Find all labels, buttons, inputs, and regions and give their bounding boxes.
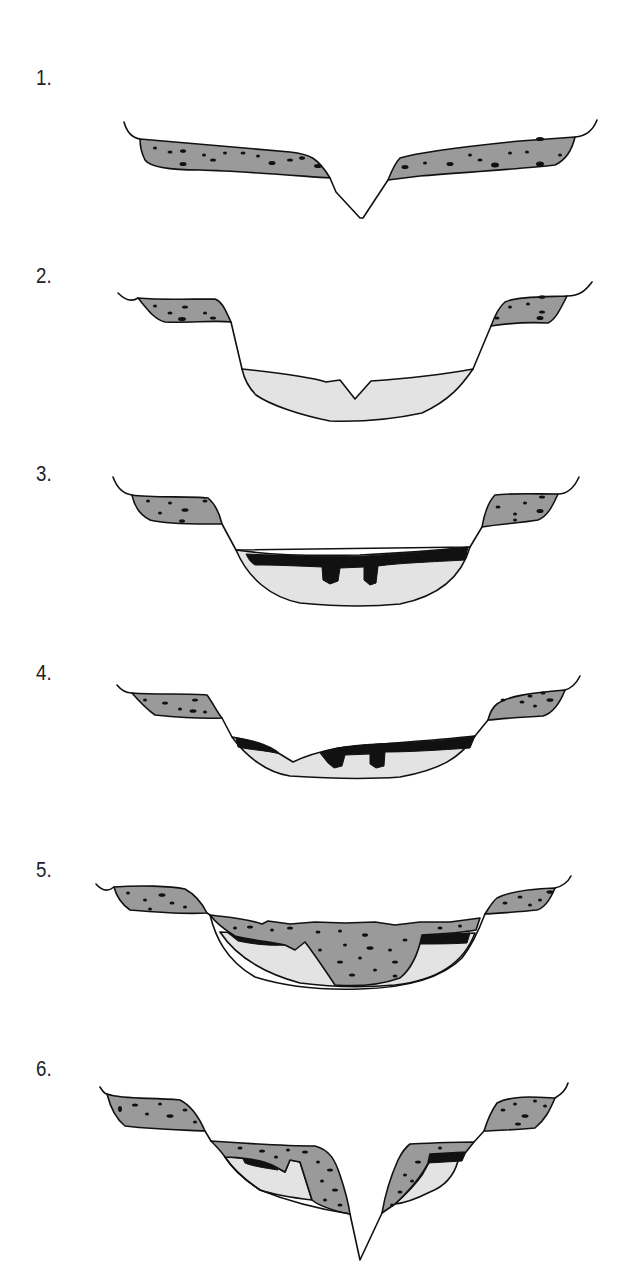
sand-fill bbox=[242, 369, 473, 421]
valley-evolution-diagram bbox=[0, 0, 624, 1269]
till-right bbox=[388, 137, 575, 180]
till-right bbox=[491, 296, 567, 326]
till-right bbox=[482, 494, 558, 527]
till-left bbox=[132, 693, 222, 718]
panel-5-cross-section bbox=[96, 876, 571, 989]
till-left bbox=[114, 886, 207, 913]
ground-surface bbox=[118, 282, 592, 369]
till-left bbox=[107, 1094, 205, 1131]
panel-3-cross-section bbox=[113, 477, 579, 606]
panel-6-cross-section bbox=[100, 1083, 568, 1260]
panel-2-cross-section bbox=[118, 282, 592, 421]
till-right bbox=[484, 1097, 555, 1131]
till-right bbox=[485, 888, 555, 914]
till-right bbox=[488, 690, 565, 720]
panel-4-cross-section bbox=[117, 676, 580, 779]
panel-1-cross-section bbox=[124, 120, 597, 218]
till-left bbox=[132, 495, 222, 524]
